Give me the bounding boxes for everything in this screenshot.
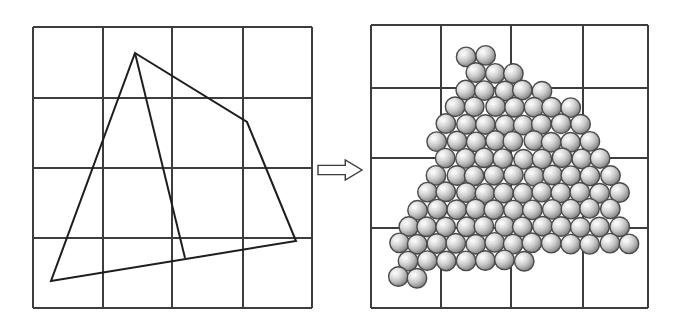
sphere-highlight xyxy=(498,188,504,193)
sphere-highlight xyxy=(623,238,629,243)
sphere-highlight xyxy=(528,135,534,140)
sphere-highlight xyxy=(537,221,543,226)
sphere-highlight xyxy=(535,119,541,124)
sphere xyxy=(532,182,552,202)
sphere xyxy=(428,199,448,219)
sphere-highlight xyxy=(518,256,524,261)
sphere-highlight xyxy=(440,186,446,191)
sphere xyxy=(561,199,581,219)
sphere-highlight xyxy=(576,153,582,158)
sphere-body xyxy=(435,148,455,168)
sphere-body xyxy=(436,182,456,202)
sphere-body xyxy=(428,199,448,219)
sphere-highlight xyxy=(516,221,522,226)
sphere-highlight xyxy=(478,85,484,90)
sphere-highlight xyxy=(460,85,466,90)
figure-container xyxy=(0,0,680,323)
sphere-highlight xyxy=(411,239,417,244)
sphere-body xyxy=(390,233,410,253)
sphere-highlight xyxy=(440,118,446,123)
sphere xyxy=(456,149,476,169)
sphere-highlight xyxy=(460,153,466,158)
sphere-body xyxy=(561,234,581,254)
sphere-highlight xyxy=(604,203,610,208)
sphere-highlight xyxy=(584,170,590,175)
sphere-highlight xyxy=(499,254,505,259)
sphere xyxy=(522,233,542,253)
sphere-highlight xyxy=(526,204,532,209)
sphere-body xyxy=(464,97,484,117)
sphere-body xyxy=(505,98,525,118)
sphere-highlight xyxy=(565,239,571,244)
sphere xyxy=(447,131,467,151)
sphere-highlight xyxy=(508,68,514,73)
sphere-highlight xyxy=(460,51,466,56)
sphere-highlight xyxy=(528,171,534,176)
sphere xyxy=(504,165,524,185)
sphere xyxy=(485,233,505,253)
sphere-highlight xyxy=(594,188,600,193)
sphere-highlight xyxy=(565,204,571,209)
sphere-body xyxy=(552,148,572,168)
sphere-body xyxy=(485,233,505,253)
sphere-body xyxy=(541,233,561,253)
sphere xyxy=(495,250,515,270)
sphere xyxy=(505,98,525,118)
sphere-highlight xyxy=(528,102,534,107)
sphere-highlight xyxy=(489,237,495,242)
sphere xyxy=(513,80,533,100)
sphere xyxy=(551,114,571,134)
sphere-body xyxy=(522,233,542,253)
sphere-highlight xyxy=(451,135,457,140)
sphere-highlight xyxy=(536,187,542,192)
sphere-highlight xyxy=(450,238,456,243)
sphere-body xyxy=(571,218,591,238)
sphere-highlight xyxy=(565,170,571,175)
sphere-highlight xyxy=(422,187,428,192)
sphere-highlight xyxy=(546,204,552,209)
sphere xyxy=(552,148,572,168)
sphere xyxy=(484,165,504,185)
sphere-highlight xyxy=(470,203,476,208)
sphere-body xyxy=(484,165,504,185)
sphere-highlight xyxy=(440,255,446,260)
sphere xyxy=(486,64,506,84)
sphere-highlight xyxy=(594,153,600,158)
sphere xyxy=(541,233,561,253)
sphere xyxy=(476,46,496,65)
sphere-highlight xyxy=(470,136,476,141)
sphere-body xyxy=(446,234,466,254)
sphere xyxy=(407,269,427,289)
sphere xyxy=(456,251,476,271)
sphere-highlight xyxy=(440,221,446,226)
sphere xyxy=(524,131,544,151)
sphere-body xyxy=(619,234,639,254)
sphere xyxy=(418,182,438,202)
sphere-highlight xyxy=(555,187,561,192)
sphere-highlight xyxy=(584,136,590,141)
sphere-body xyxy=(474,148,494,168)
sphere-highlight xyxy=(575,119,581,124)
sphere-highlight xyxy=(547,169,553,174)
sphere-highlight xyxy=(402,256,408,261)
sphere-highlight xyxy=(536,153,542,158)
sphere-highlight xyxy=(574,187,580,192)
sphere-highlight xyxy=(411,273,417,278)
sphere-highlight xyxy=(584,203,590,208)
sphere-body xyxy=(437,251,457,271)
sphere-highlight xyxy=(490,101,496,106)
sphere xyxy=(436,114,456,133)
sphere xyxy=(514,252,534,272)
sphere-highlight xyxy=(431,238,437,243)
sphere-highlight xyxy=(614,221,620,226)
sphere xyxy=(580,199,600,219)
sphere-body xyxy=(418,182,438,202)
sphere-highlight xyxy=(614,187,620,192)
sphere-highlight xyxy=(430,170,436,175)
sphere xyxy=(447,200,467,220)
sphere-highlight xyxy=(526,237,532,242)
sphere-highlight xyxy=(508,205,514,210)
sphere-highlight xyxy=(574,222,580,227)
sphere-highlight xyxy=(517,120,523,125)
sphere-highlight xyxy=(461,221,467,226)
